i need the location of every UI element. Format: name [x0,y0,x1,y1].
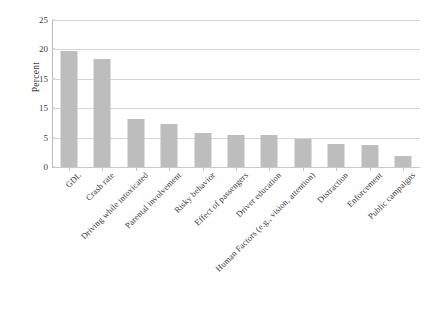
x-axis-category-label: Parental involvement [123,170,183,230]
bar-chart: Percent 0515152025 GDLCrash rateDriving … [0,0,428,311]
x-axis-category-label: Crash rate [84,170,117,203]
y-axis-tick-label: 15 [18,74,48,84]
y-axis-tick-label: 20 [18,44,48,54]
x-axis-category-labels: GDLCrash rateDriving while intoxicatedPa… [52,170,420,310]
bar-slot [387,20,420,167]
bar [94,59,111,167]
bar [161,124,178,167]
bar-slot [186,20,219,167]
bar [361,145,378,167]
bar-series [52,20,420,167]
bar [328,144,345,167]
bar [194,133,211,167]
x-axis-category-label: Distraction [316,170,351,205]
bar-slot [253,20,286,167]
plot-area [52,20,420,167]
bar-slot [353,20,386,167]
bar [127,119,144,167]
y-axis-tick-labels: 0515152025 [14,20,48,167]
bar-slot [286,20,319,167]
y-axis-tick-label: 15 [18,103,48,113]
y-axis-tick-label: 5 [18,133,48,143]
bar-slot [119,20,152,167]
bar [261,135,278,167]
bar-slot [320,20,353,167]
bar [294,139,311,167]
x-axis-category-label: GDL [63,170,83,190]
bar-slot [85,20,118,167]
bar-slot [219,20,252,167]
y-axis-tick-label: 0 [18,162,48,172]
bar [60,51,77,167]
bar-slot [52,20,85,167]
y-axis-tick-label: 25 [18,15,48,25]
bar [395,156,412,167]
bar-slot [152,20,185,167]
bar [227,135,244,167]
